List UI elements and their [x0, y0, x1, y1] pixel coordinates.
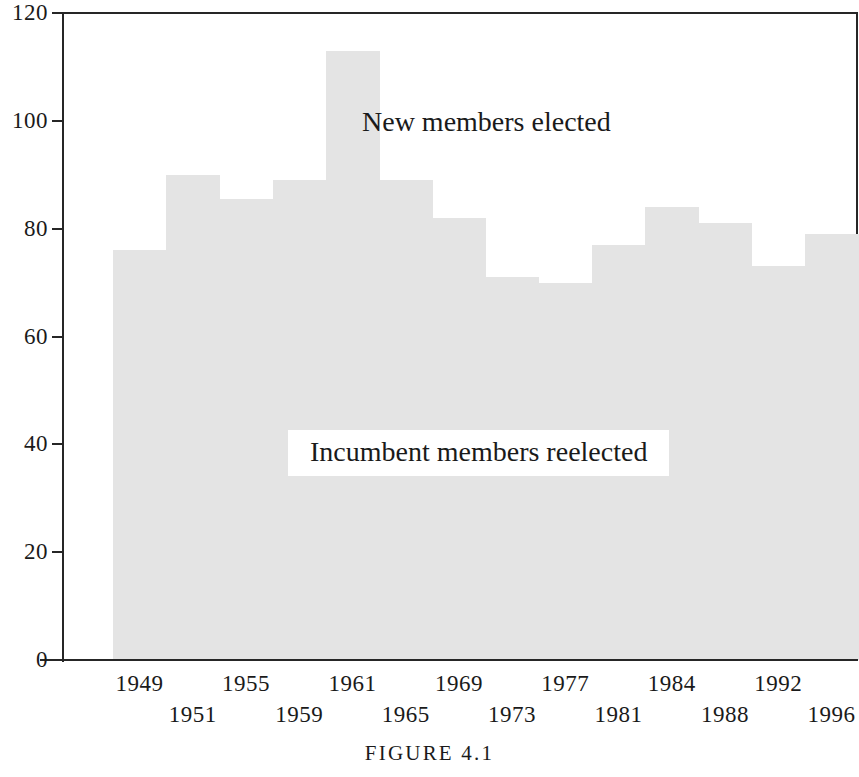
- figure-container: 020406080100120 194919511955195919611965…: [0, 0, 859, 777]
- bar-1955: [219, 199, 273, 660]
- bar-1992: [752, 266, 806, 660]
- y-tick-60: [52, 336, 64, 338]
- bar-1965: [379, 180, 433, 660]
- x-tick-label-1969: 1969: [435, 672, 483, 695]
- x-tick-label-1961: 1961: [328, 672, 376, 695]
- bar-1996: [805, 234, 859, 660]
- x-tick-label-1959: 1959: [275, 703, 323, 726]
- y-tick-label-40: 40: [0, 432, 48, 455]
- x-tick-label-1996: 1996: [807, 703, 855, 726]
- y-tick-80: [52, 228, 64, 230]
- y-tick-20: [52, 551, 64, 553]
- bar-1951: [166, 175, 220, 660]
- y-tick-label-100: 100: [0, 109, 48, 132]
- annotation-new-members: New members elected: [362, 108, 611, 136]
- x-tick-label-1949: 1949: [116, 672, 164, 695]
- x-tick-label-1984: 1984: [648, 672, 696, 695]
- bar-1959: [273, 180, 327, 660]
- x-tick-label-1973: 1973: [488, 703, 536, 726]
- y-tick-100: [52, 120, 64, 122]
- x-tick-label-1965: 1965: [382, 703, 430, 726]
- x-tick-label-1992: 1992: [754, 672, 802, 695]
- figure-caption: FIGURE 4.1: [0, 741, 859, 766]
- x-tick-label-1981: 1981: [595, 703, 643, 726]
- annotation-incumbent-members: Incumbent members reelected: [288, 430, 669, 476]
- y-tick-120: [52, 12, 64, 14]
- y-tick-0: [52, 659, 64, 661]
- x-tick-label-1951: 1951: [169, 703, 217, 726]
- y-tick-label-0: 0: [0, 648, 48, 671]
- x-tick-label-1977: 1977: [541, 672, 589, 695]
- x-tick-label-1988: 1988: [701, 703, 749, 726]
- y-tick-label-20: 20: [0, 540, 48, 563]
- bar-1949: [113, 250, 167, 660]
- x-tick-label-1955: 1955: [222, 672, 270, 695]
- y-tick-40: [52, 443, 64, 445]
- bar-1961: [326, 51, 380, 660]
- x-axis-line: [40, 659, 858, 661]
- y-tick-label-120: 120: [0, 1, 48, 24]
- bar-1988: [698, 223, 752, 660]
- y-tick-label-60: 60: [0, 325, 48, 348]
- y-tick-label-80: 80: [0, 217, 48, 240]
